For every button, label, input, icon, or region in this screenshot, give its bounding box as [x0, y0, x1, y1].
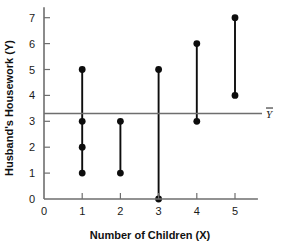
x-tick-label-5: 5	[232, 205, 238, 217]
y-tick-label-0: 0	[29, 193, 35, 205]
data-point	[79, 66, 86, 73]
x-tick-label-1: 1	[79, 205, 85, 217]
axes	[44, 7, 258, 199]
scatter-plot: 01234567 012345 Number of Children (X) H…	[0, 0, 286, 245]
y-axis-title: Husband's Housework (Y)	[3, 40, 15, 176]
data-point	[79, 144, 86, 151]
data-point	[117, 170, 124, 177]
y-tick-label-1: 1	[29, 167, 35, 179]
x-axis-ticks: 012345	[41, 193, 238, 217]
y-axis-ticks: 01234567	[29, 12, 50, 205]
data-point	[117, 118, 124, 125]
mean-label-group: Y	[266, 108, 274, 120]
y-tick-label-5: 5	[29, 64, 35, 76]
data-point	[232, 14, 239, 21]
data-point	[193, 40, 200, 47]
x-tick-label-4: 4	[194, 205, 200, 217]
y-tick-label-2: 2	[29, 141, 35, 153]
chart-figure: 01234567 012345 Number of Children (X) H…	[0, 0, 286, 245]
x-tick-label-0: 0	[41, 205, 47, 217]
y-tick-label-3: 3	[29, 115, 35, 127]
y-tick-label-6: 6	[29, 38, 35, 50]
data-point	[193, 118, 200, 125]
data-point	[79, 118, 86, 125]
mean-line-label: Y	[266, 108, 274, 120]
y-tick-label-4: 4	[29, 89, 35, 101]
deviation-connectors	[82, 18, 235, 199]
data-point	[155, 66, 162, 73]
x-axis-title: Number of Children (X)	[90, 229, 211, 241]
x-tick-label-2: 2	[117, 205, 123, 217]
data-point	[79, 170, 86, 177]
y-tick-label-7: 7	[29, 12, 35, 24]
data-point	[232, 92, 239, 99]
x-tick-label-3: 3	[156, 205, 162, 217]
